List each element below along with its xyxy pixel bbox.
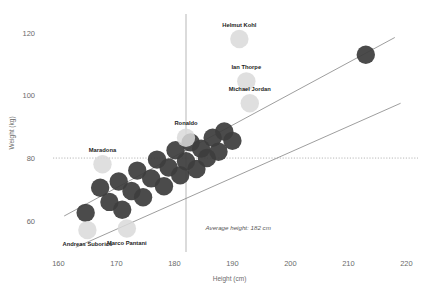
x-tick-label: 160 [52,259,65,268]
data-point [241,94,259,112]
data-point [113,201,131,219]
point-label: Ian Thorpe [231,64,261,70]
x-tick-label: 180 [168,259,181,268]
x-tick-label: 190 [226,259,239,268]
y-axis-title: Weight (kg) [8,116,16,149]
y-tick-label: 60 [27,217,35,226]
y-tick-label: 120 [22,29,35,38]
x-axis-title: Height (cm) [213,275,247,283]
data-point [134,188,152,206]
data-point [78,221,96,239]
data-point [93,155,111,173]
point-label: Michael Jordan [229,86,272,92]
data-point [230,30,248,48]
x-tick-label: 170 [110,259,123,268]
point-label: Ronaldo [174,120,198,126]
x-tick-label: 210 [342,259,355,268]
data-point [177,128,195,146]
data-point [76,204,94,222]
scatter-chart: Andreas SuboricsMarco PantaniMaradonaRon… [0,0,432,294]
y-tick-label: 80 [27,154,35,163]
point-label: Maradona [89,147,117,153]
annotations-layer: Average height: 182 cm [205,224,271,231]
data-point [155,177,173,195]
point-label: Andreas Suborics [63,241,113,247]
x-tick-label: 200 [284,259,297,268]
plot-canvas: Andreas SuboricsMarco PantaniMaradonaRon… [0,0,432,294]
data-point [118,219,136,237]
point-label: Marco Pantani [107,240,147,246]
data-point [223,132,241,150]
point-label: Helmut Kohl [222,22,257,28]
y-tick-label: 100 [22,91,35,100]
average-height-annotation: Average height: 182 cm [205,224,271,231]
data-point [357,46,375,64]
x-tick-label: 220 [400,259,413,268]
